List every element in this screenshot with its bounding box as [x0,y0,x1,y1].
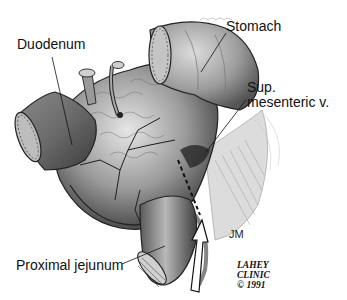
illustration: Duodenum Stomach Sup. mesenteric v. Prox… [0,0,347,300]
label-mesenteric-v: mesenteric v. [247,95,329,110]
credit-line-3: © 1991 [237,280,265,290]
label-stomach: Stomach [226,19,281,34]
label-proximal-jejunum: Proximal jejunum [16,258,123,273]
artist-initials: JM [229,228,244,240]
credit-line-1: LAHEY [237,260,269,270]
credit-line-2: CLINIC [237,270,270,280]
label-sup: Sup. [247,80,276,95]
label-duodenum: Duodenum [17,37,86,52]
